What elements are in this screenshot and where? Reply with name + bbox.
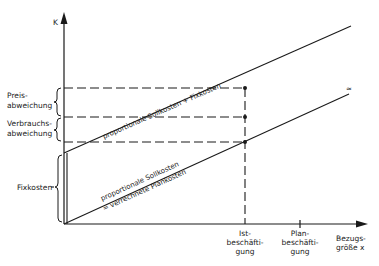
preis-brace [54,88,61,116]
y-axis-label: K [53,18,59,27]
x-axis-label-line1: Bezugs- [336,234,366,243]
y-axis-arrow-icon [61,12,68,24]
fixkosten-brace [55,155,62,222]
verbrauch-label-line1: Verbrauchs- [7,119,52,128]
upper-line-label: proportionale Sollkosten + Fixkosten [102,82,223,141]
line-end-mark: ≈ [346,85,352,93]
cost-variance-diagram: K Bezugs- größe x Plan- beschäfti- gung … [0,0,379,266]
plan-label-line1: Plan- [291,229,310,238]
verbrauch-label-line2: abweichung [7,129,53,138]
ist-label-line2: beschäfti- [227,238,264,247]
dot-middle [243,115,247,119]
plan-label-line2: beschäfti- [282,238,319,247]
x-axis-label-line2: größe x [336,243,365,252]
dot-upper [243,86,247,90]
verbrauch-brace [54,118,61,141]
preis-label-line2: abweichung [7,101,53,110]
ist-label-line3: gung [235,247,254,256]
x-axis-arrow-icon [356,221,368,228]
fixkosten-label: Fixkosten [17,183,52,192]
preis-label-line1: Preis- [7,91,28,100]
ist-label-line1: Ist- [239,229,251,238]
plan-label-line3: gung [290,247,309,256]
